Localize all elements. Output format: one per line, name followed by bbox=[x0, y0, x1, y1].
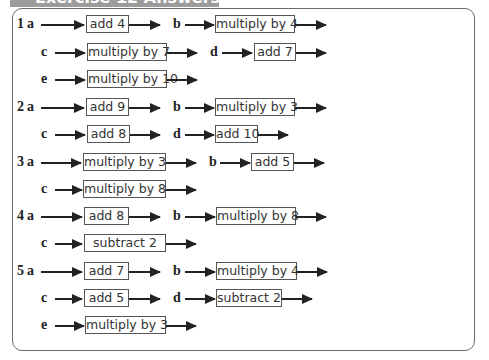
part-label-e: e bbox=[41, 70, 47, 88]
exercise-title: Exercise 12 Answers bbox=[35, 0, 219, 7]
function-machine-box: multiply by 8 bbox=[83, 180, 166, 198]
function-machine-box: add 7 bbox=[254, 43, 296, 61]
function-machine-box: add 5 bbox=[251, 153, 294, 171]
function-machine-box: add 10 bbox=[215, 125, 258, 143]
exercise-header-bar: Exercise 12 Answers bbox=[10, 0, 219, 7]
function-machine-box: add 5 bbox=[84, 289, 129, 307]
question-number: 2 bbox=[17, 98, 24, 116]
output-arrow-icon bbox=[166, 189, 196, 191]
input-arrow-icon bbox=[185, 298, 215, 300]
input-arrow-icon bbox=[41, 271, 82, 273]
output-arrow-icon bbox=[167, 79, 197, 81]
function-machine-box: add 7 bbox=[84, 262, 129, 280]
input-arrow-icon bbox=[41, 216, 82, 218]
part-label-a: a bbox=[27, 207, 34, 225]
part-label-e: e bbox=[41, 316, 47, 334]
function-machine-box: add 8 bbox=[84, 207, 129, 225]
output-arrow-icon bbox=[129, 216, 160, 218]
function-machine-box: multiply by 10 bbox=[87, 70, 167, 88]
question-number: 3 bbox=[17, 153, 24, 171]
function-machine-box: multiply by 3 bbox=[215, 98, 295, 116]
input-arrow-icon bbox=[41, 24, 84, 26]
input-arrow-icon bbox=[55, 298, 82, 300]
function-machine-box: multiply by 3 bbox=[85, 316, 166, 334]
input-arrow-icon bbox=[55, 325, 84, 327]
part-label-a: a bbox=[27, 98, 34, 116]
output-arrow-icon bbox=[130, 134, 160, 136]
output-arrow-icon bbox=[129, 298, 160, 300]
function-machine-box: add 4 bbox=[86, 15, 129, 33]
part-label-c: c bbox=[41, 289, 47, 307]
function-machine-box: subtract 2 bbox=[84, 234, 166, 252]
input-arrow-icon bbox=[55, 189, 82, 191]
part-label-d: d bbox=[210, 43, 218, 61]
part-label-c: c bbox=[41, 180, 47, 198]
output-arrow-icon bbox=[294, 162, 324, 164]
input-arrow-icon bbox=[41, 162, 81, 164]
output-arrow-icon bbox=[129, 24, 160, 26]
output-arrow-icon bbox=[282, 298, 312, 300]
question-number: 5 bbox=[17, 262, 24, 280]
part-label-b: b bbox=[173, 262, 181, 280]
output-arrow-icon bbox=[166, 243, 196, 245]
output-arrow-icon bbox=[129, 271, 160, 273]
part-label-a: a bbox=[27, 153, 34, 171]
input-arrow-icon bbox=[55, 52, 85, 54]
input-arrow-icon bbox=[185, 216, 215, 218]
question-number: 4 bbox=[17, 207, 24, 225]
input-arrow-icon bbox=[55, 134, 85, 136]
input-arrow-icon bbox=[220, 162, 250, 164]
output-arrow-icon bbox=[295, 24, 326, 26]
function-machine-box: multiply by 8 bbox=[216, 207, 296, 225]
function-machine-box: multiply by 4 bbox=[215, 15, 295, 33]
output-arrow-icon bbox=[296, 216, 326, 218]
output-arrow-icon bbox=[166, 162, 196, 164]
output-arrow-icon bbox=[296, 52, 326, 54]
part-label-c: c bbox=[41, 234, 47, 252]
input-arrow-icon bbox=[55, 79, 85, 81]
part-label-d: d bbox=[173, 289, 181, 307]
part-label-c: c bbox=[41, 125, 47, 143]
function-machine-box: subtract 2 bbox=[216, 289, 282, 307]
input-arrow-icon bbox=[55, 243, 82, 245]
function-machine-box: multiply by 4 bbox=[216, 262, 297, 280]
function-machine-box: multiply by 7 bbox=[87, 43, 167, 61]
function-machine-box: add 9 bbox=[86, 98, 129, 116]
function-machine-box: add 8 bbox=[87, 125, 130, 143]
input-arrow-icon bbox=[222, 52, 252, 54]
part-label-b: b bbox=[173, 98, 181, 116]
part-label-a: a bbox=[27, 262, 34, 280]
input-arrow-icon bbox=[185, 271, 215, 273]
input-arrow-icon bbox=[41, 107, 84, 109]
part-label-b: b bbox=[173, 15, 181, 33]
part-label-b: b bbox=[173, 207, 181, 225]
output-arrow-icon bbox=[166, 325, 196, 327]
input-arrow-icon bbox=[185, 24, 214, 26]
question-number: 1 bbox=[17, 15, 24, 33]
input-arrow-icon bbox=[185, 134, 214, 136]
part-label-a: a bbox=[27, 15, 34, 33]
output-arrow-icon bbox=[129, 107, 160, 109]
output-arrow-icon bbox=[167, 52, 197, 54]
part-label-d: d bbox=[173, 125, 181, 143]
output-arrow-icon bbox=[295, 107, 326, 109]
output-arrow-icon bbox=[297, 271, 327, 273]
function-machine-box: multiply by 3 bbox=[83, 153, 166, 171]
part-label-b: b bbox=[209, 153, 217, 171]
part-label-c: c bbox=[41, 43, 47, 61]
output-arrow-icon bbox=[258, 134, 288, 136]
input-arrow-icon bbox=[185, 107, 214, 109]
